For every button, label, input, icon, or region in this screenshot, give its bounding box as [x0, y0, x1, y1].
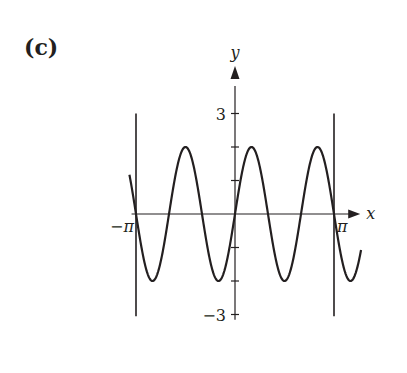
- x-axis-label: x: [366, 204, 375, 223]
- y-axis-label: y: [229, 43, 240, 62]
- y-axis-arrow-icon: [231, 66, 240, 79]
- x-axis-arrow-icon: [348, 210, 360, 219]
- x-tick-label-neg-pi: −π: [110, 217, 134, 236]
- axis-labels: yx3−3−ππ: [110, 43, 375, 325]
- sine-chart: yx3−3−ππ: [0, 0, 407, 373]
- axes: [132, 66, 361, 320]
- y-tick-label: 3: [216, 105, 226, 124]
- x-tick-label-pi: π: [336, 217, 348, 236]
- y-tick-label: −3: [202, 306, 226, 325]
